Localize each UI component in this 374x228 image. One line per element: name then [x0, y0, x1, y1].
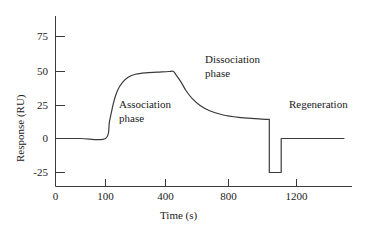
annotation-dissociation-line2: phase — [205, 67, 230, 80]
y-tick-label-50: 50 — [24, 66, 48, 77]
annotation-association-line2: phase — [119, 112, 144, 125]
annotation-regeneration: Regeneration — [289, 98, 348, 111]
y-tick-label-0: 0 — [24, 133, 48, 144]
x-tick-label-100: 100 — [91, 191, 120, 202]
y-tick-marks — [56, 37, 66, 173]
x-axis-title: Time (s) — [160, 209, 197, 221]
sensorgram-trace — [56, 71, 345, 172]
sensorgram-figure: 75 50 25 0 -25 0 100 400 800 1200 Respon… — [0, 0, 374, 228]
x-tick-marks — [56, 179, 297, 187]
y-tick-label-75: 75 — [24, 31, 48, 42]
annotation-dissociation-line1: Dissociation — [205, 53, 260, 66]
x-tick-label-0: 0 — [41, 191, 70, 202]
x-tick-label-800: 800 — [214, 191, 243, 202]
y-tick-label-25: 25 — [24, 100, 48, 111]
annotation-association-line1: Association — [119, 98, 171, 111]
y-axis-title: Response (RU) — [14, 94, 26, 162]
x-tick-label-1200: 1200 — [280, 191, 313, 202]
x-tick-label-400: 400 — [151, 191, 180, 202]
y-tick-label-neg25: -25 — [20, 167, 48, 178]
